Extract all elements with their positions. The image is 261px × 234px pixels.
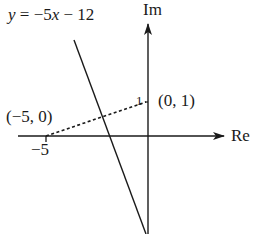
- equation-label: y = −5x − 12: [8, 6, 94, 23]
- eq-y: y: [8, 5, 16, 24]
- real-axis-label: Re: [231, 127, 250, 144]
- point-label-minus5-0: (−5, 0): [6, 108, 52, 125]
- eq-tail: − 12: [59, 5, 94, 24]
- imaginary-axis-label: Im: [143, 1, 162, 18]
- tick-label-minus5: −5: [31, 141, 49, 158]
- eq-mid: = −5: [16, 5, 52, 24]
- complex-plane-diagram: y = −5x − 12 Im Re (−5, 0) (0, 1) 1 −5: [0, 0, 261, 234]
- tick-label-1: 1: [136, 94, 143, 107]
- dotted-segment: [46, 102, 146, 136]
- point-label-0-1: (0, 1): [158, 92, 195, 109]
- line-y-eq-minus5x-minus12: [74, 40, 146, 234]
